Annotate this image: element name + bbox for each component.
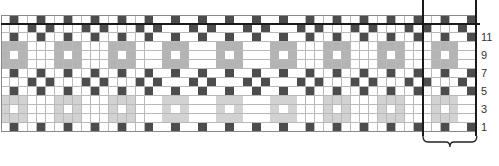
- repeat-right-line: [475, 0, 477, 136]
- row-label-5: 5: [481, 85, 497, 97]
- row-label-9: 9: [481, 49, 497, 61]
- repeat-left-line: [422, 0, 424, 136]
- repeat-brace-icon: [422, 136, 480, 150]
- top-row-divider: [1, 23, 480, 25]
- row-label-11: 11: [481, 31, 497, 43]
- row-label-3: 3: [481, 103, 497, 115]
- row-label-1: 1: [481, 121, 497, 133]
- row-label-7: 7: [481, 67, 497, 79]
- knitting-chart-grid: [1, 15, 476, 132]
